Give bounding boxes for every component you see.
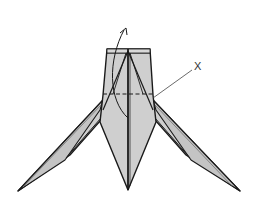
body	[100, 49, 156, 190]
left-leg	[18, 100, 108, 191]
origami-diagram: X	[0, 0, 256, 201]
right-leg	[148, 100, 240, 191]
point-label-x: X	[194, 60, 202, 72]
point-x-annotation: X	[153, 60, 202, 98]
leader-line	[153, 70, 192, 98]
